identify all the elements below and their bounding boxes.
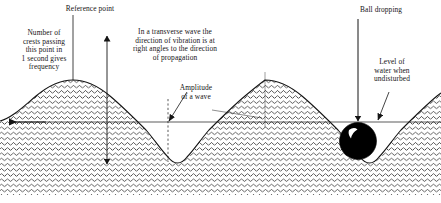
label-ball-dropping: Ball dropping [360,6,434,15]
label-reference-point: Reference point [44,5,136,14]
label-frequency-note: Number of crests passing this point in 1… [4,29,84,72]
label-amplitude-of-a-wave: Amplitude of a wave [160,84,232,101]
label-transverse-wave-note: In a transverse wave the direction of vi… [110,28,240,62]
wave-diagram-page: Reference point Number of crests passing… [0,0,441,203]
label-undisturbed-water-level: Level of water when undisturbed [357,58,427,84]
dropping-ball [340,123,377,160]
